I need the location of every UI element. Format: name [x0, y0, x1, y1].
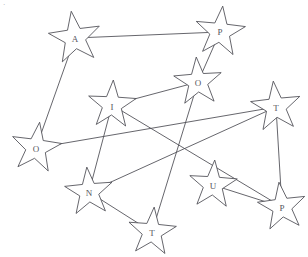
star-label: T: [273, 103, 279, 113]
star-label: T: [149, 228, 155, 238]
star-node-t-n10[interactable]: T: [129, 207, 176, 253]
star-node-p-n9[interactable]: P: [257, 182, 304, 229]
edge-o-left-t-right: [36, 107, 276, 148]
star-label: A: [72, 34, 79, 44]
star-label: I: [111, 102, 114, 112]
star-label: N: [86, 188, 93, 198]
edges-group: [36, 32, 282, 232]
star-node-a-n1[interactable]: A: [48, 11, 99, 62]
star-node-o-n3[interactable]: O: [174, 57, 221, 103]
star-label: O: [33, 144, 40, 154]
star-label: U: [210, 181, 217, 191]
star-node-p-n2[interactable]: P: [196, 6, 245, 54]
star-label: P: [217, 27, 222, 37]
star-node-t-n5[interactable]: T: [251, 81, 300, 129]
nodes-group: APOITONUPT: [13, 6, 305, 253]
edge-o-t-bottom: [152, 82, 198, 232]
edge-a-p: [75, 32, 220, 38]
star-node-u-n8[interactable]: U: [190, 160, 237, 206]
star-label: O: [195, 78, 202, 88]
star-network-svg: APOITONUPT: [0, 0, 308, 257]
star-node-n-n7[interactable]: N: [65, 167, 112, 213]
star-network-figure: · APOITONUPT: [0, 0, 308, 257]
star-label: P: [279, 203, 284, 213]
star-node-o-n6[interactable]: O: [13, 122, 62, 171]
star-node-i-n4[interactable]: I: [89, 80, 136, 126]
